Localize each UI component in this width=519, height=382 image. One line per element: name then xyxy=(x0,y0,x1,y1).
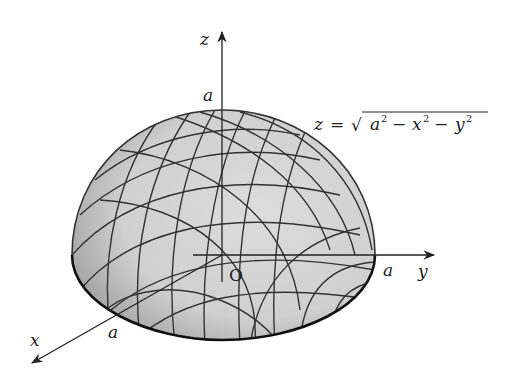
svg-text:y: y xyxy=(454,114,465,134)
origin-label: O xyxy=(229,265,243,285)
svg-text:−: − xyxy=(434,114,448,134)
z-tick-label-a: a xyxy=(203,85,213,105)
svg-text:2: 2 xyxy=(423,113,429,124)
surface-equation: z = √ a 2 − x 2 − y 2 xyxy=(313,112,488,135)
z-axis-label: z xyxy=(199,29,210,49)
svg-text:a: a xyxy=(370,114,380,134)
y-tick-label-a: a xyxy=(383,260,393,280)
svg-text:√: √ xyxy=(351,115,362,135)
svg-text:2: 2 xyxy=(466,113,472,124)
svg-text:z: z xyxy=(313,114,324,134)
x-tick-label-a: a xyxy=(108,322,118,342)
svg-text:−: − xyxy=(392,114,406,134)
hemisphere-surface xyxy=(72,110,375,345)
hemisphere-diagram: z a a y a x O z = √ a 2 − x 2 − y 2 xyxy=(0,0,519,382)
svg-text:x: x xyxy=(412,114,422,134)
x-axis-label: x xyxy=(30,330,40,350)
y-axis-label: y xyxy=(417,261,428,281)
svg-text:=: = xyxy=(330,114,344,134)
svg-text:2: 2 xyxy=(381,113,387,124)
